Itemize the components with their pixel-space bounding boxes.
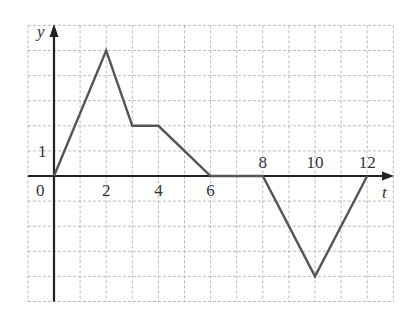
x-tick-label: 12 (359, 153, 376, 172)
x-axis-label: t (382, 183, 388, 202)
y-tick-label: 1 (38, 142, 47, 161)
x-tick-label: 8 (259, 153, 268, 172)
x-tick-label: 2 (102, 181, 111, 200)
chart: 246810121 0 y t (0, 0, 409, 315)
x-tick-label: 10 (307, 153, 324, 172)
x-tick-label: 6 (206, 181, 215, 200)
x-axis-arrow-icon (382, 172, 394, 181)
x-tick-label: 4 (154, 181, 163, 200)
origin-label: 0 (36, 181, 45, 200)
y-axis-label: y (35, 22, 45, 41)
y-axis-arrow-icon (50, 24, 59, 37)
grid (28, 25, 393, 301)
